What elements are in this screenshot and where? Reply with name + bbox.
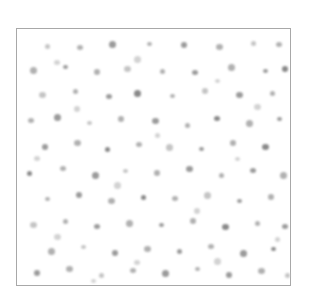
scatter-dot (134, 90, 141, 97)
scatter-dot (76, 192, 82, 198)
scatter-dot (216, 44, 223, 50)
scatter-dot (54, 60, 60, 65)
scatter-dot (230, 140, 236, 146)
scatter-dot (285, 273, 290, 278)
scatter-dot (215, 79, 220, 83)
scatter-dot (276, 42, 282, 47)
scatter-dot (181, 42, 187, 48)
scatter-dot (87, 121, 92, 125)
scatter-dot (222, 224, 229, 230)
scatter-dot (54, 234, 61, 240)
scatter-dot (214, 258, 221, 265)
scatter-dot (268, 194, 274, 200)
scatter-dot (186, 166, 193, 172)
scatter-dot (190, 218, 196, 224)
scatter-dot (60, 166, 66, 171)
scatter-dot (141, 195, 146, 200)
scatter-dot (42, 144, 48, 150)
scatter-dot (160, 69, 165, 74)
scatter-dot (123, 169, 128, 173)
scatter-dot (73, 89, 78, 94)
scatter-dot (134, 56, 141, 63)
scatter-dot (255, 221, 260, 226)
scatter-dot (30, 67, 37, 74)
scatter-dot (204, 192, 211, 199)
scatter-dot (74, 140, 81, 146)
scatter-dot (254, 104, 261, 110)
scatter-dot (92, 172, 99, 179)
image-frame (16, 28, 291, 286)
scatter-dot (39, 92, 46, 98)
scatter-dot (66, 266, 73, 272)
scatter-dot (34, 156, 40, 161)
scatter-dot (219, 173, 224, 178)
scatter-dot (30, 222, 37, 228)
scatter-dot (199, 147, 204, 151)
scatter-dot (48, 248, 55, 255)
scatter-dot (263, 69, 268, 73)
scatter-dot (144, 246, 151, 252)
scatter-dot (170, 94, 175, 98)
scatter-dot (130, 268, 136, 273)
scatter-dot (28, 118, 34, 123)
scatter-dot (159, 223, 164, 227)
scatter-dot (124, 66, 131, 72)
scatter-dot (109, 41, 116, 48)
scatter-dot (63, 219, 68, 224)
scatter-dot (134, 260, 140, 265)
scatter-dot (91, 279, 96, 283)
scatter-dot (114, 182, 121, 189)
scatter-dot (155, 133, 160, 138)
scatter-dot (226, 272, 232, 278)
scatter-dot (277, 117, 282, 121)
scatter-dot (136, 142, 142, 147)
scatter-dot (246, 120, 253, 127)
scatter-dot (251, 41, 256, 46)
scatter-dot (228, 64, 235, 71)
scatter-dot (235, 157, 240, 161)
scatter-dot (237, 199, 242, 203)
scatter-dot (63, 65, 68, 69)
scatter-dot (81, 245, 86, 249)
scatter-dot (282, 66, 288, 72)
scatter-dot (214, 116, 220, 121)
scatter-dot (162, 270, 169, 277)
scatter-dot (94, 224, 100, 229)
scatter-dot (99, 273, 104, 278)
scatter-dot (275, 237, 280, 242)
scatter-dot (240, 250, 247, 257)
scatter-dot (236, 92, 243, 98)
scatter-dot (106, 94, 112, 99)
scatter-dot (112, 250, 118, 256)
scatter-dot (108, 198, 115, 204)
scatter-dot (54, 114, 61, 121)
scatter-dot (74, 106, 80, 112)
scatter-dot (258, 268, 265, 274)
scatter-dot (208, 244, 214, 249)
scatter-dot (105, 147, 110, 152)
scatter-dot (271, 247, 276, 251)
scatter-dot (152, 118, 159, 124)
scatter-dot (280, 172, 287, 179)
scatter-dot (45, 44, 50, 49)
scatter-dot (250, 168, 256, 173)
scatter-dot (77, 45, 83, 50)
scatter-dot (94, 69, 100, 75)
scatter-dot (262, 144, 269, 150)
scatter-dot (45, 197, 50, 201)
scatter-dot (166, 144, 173, 151)
scatter-dot (192, 70, 198, 75)
scatter-dot (202, 88, 208, 94)
scatter-dot (118, 116, 124, 122)
scatter-dot (172, 196, 178, 201)
scatter-dot (126, 220, 133, 227)
scatter-dot (282, 224, 288, 229)
scatter-dot (177, 249, 182, 254)
scatter-dot (147, 42, 152, 46)
scatter-dot (270, 91, 275, 96)
scatter-dot (154, 170, 160, 176)
scatter-dot (194, 208, 200, 214)
scatter-dot (27, 171, 32, 176)
scatter-dot (34, 270, 40, 276)
scatter-dot (195, 267, 200, 271)
